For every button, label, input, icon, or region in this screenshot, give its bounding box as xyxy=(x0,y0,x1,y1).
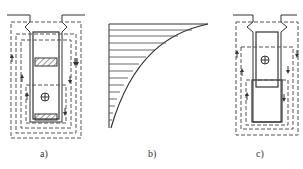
hatched-bar-lower xyxy=(35,114,57,120)
flux-lines xyxy=(236,22,298,135)
caption-a: a) xyxy=(40,148,48,159)
panel-a xyxy=(7,15,85,138)
hatch-lines xyxy=(109,30,192,120)
slot-outline xyxy=(233,15,297,122)
hatched-bar-upper xyxy=(35,58,57,66)
panel-c xyxy=(233,15,298,135)
caption-b: b) xyxy=(148,148,156,159)
distribution-curve xyxy=(111,24,208,128)
panel-b xyxy=(109,24,208,128)
caption-c: c) xyxy=(256,148,264,159)
conductor-bar xyxy=(33,32,59,119)
figure-canvas xyxy=(0,0,303,169)
slot-outline xyxy=(7,15,85,122)
